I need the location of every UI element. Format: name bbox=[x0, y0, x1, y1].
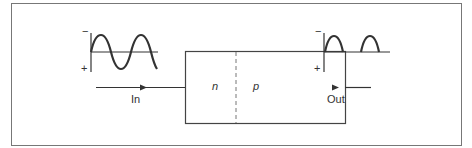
p-region-label: p bbox=[253, 80, 259, 92]
input-arrow bbox=[96, 85, 185, 91]
input-label: In bbox=[131, 93, 140, 105]
pn-junction-block bbox=[186, 52, 346, 124]
output-axis-plus: + bbox=[314, 62, 320, 74]
output-label: Out bbox=[327, 93, 345, 105]
input-waveform bbox=[91, 33, 158, 72]
input-axis-plus: + bbox=[81, 62, 87, 74]
input-axis-minus: − bbox=[82, 25, 88, 37]
n-region-label: n bbox=[212, 80, 218, 92]
diagram-canvas bbox=[0, 0, 472, 148]
output-axis-minus: − bbox=[315, 25, 321, 37]
